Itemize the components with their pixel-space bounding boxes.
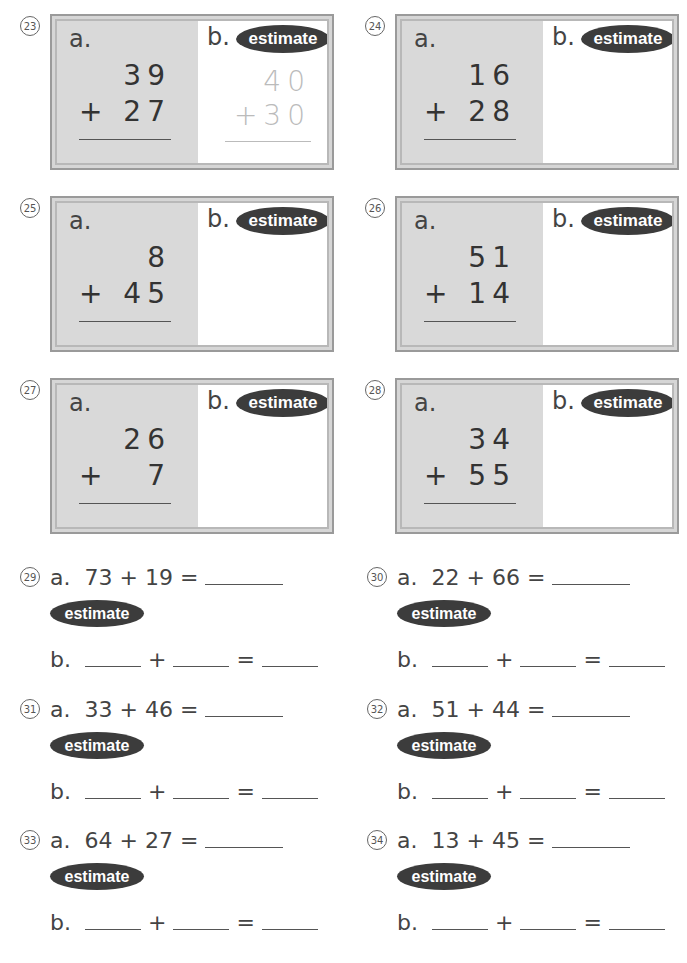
answer-blank[interactable] (552, 583, 630, 585)
estimate-addend-1-blank[interactable] (432, 797, 488, 799)
problem-frame: a. 26 + 7 b. estimate (50, 378, 334, 534)
part-a-label: a. (397, 565, 417, 590)
estimate-badge: estimate (236, 389, 329, 417)
addend-top: 34 (468, 423, 516, 456)
equation: 51 + 44 = (431, 697, 545, 722)
equation: 22 + 66 = (431, 565, 545, 590)
part-b-row: b. + = (50, 910, 318, 935)
problem-number: 23 (20, 16, 40, 36)
part-b-label: b. (207, 23, 230, 51)
problem-number: 33 (20, 830, 40, 850)
part-b-label: b. (552, 205, 575, 233)
equation: 73 + 19 = (84, 565, 198, 590)
estimate-addend-2-blank[interactable] (520, 797, 576, 799)
estimate-badge: estimate (236, 207, 329, 235)
part-b-label: b. (50, 647, 71, 672)
addend-bottom: + 55 (424, 459, 516, 492)
addend-bottom: + 45 (79, 277, 171, 310)
estimate-addend-1-blank[interactable] (85, 665, 141, 667)
answer-blank[interactable] (205, 583, 283, 585)
answer-line (424, 139, 516, 140)
part-a-label: a. (397, 828, 417, 853)
answer-blank[interactable] (205, 715, 283, 717)
part-b-row: b. + = (397, 910, 665, 935)
part-b-row: b. + = (50, 647, 318, 672)
problem-number: 25 (20, 198, 40, 218)
estimate-addend-2-blank[interactable] (173, 797, 229, 799)
addend-top: 8 (147, 241, 171, 274)
part-b-label: b. (397, 647, 418, 672)
part-a-label: a. (69, 207, 91, 235)
problem-number: 27 (20, 380, 40, 400)
estimate-addend-1-blank[interactable] (85, 928, 141, 930)
answer-line (79, 503, 171, 504)
part-b-row: b. + = (397, 647, 665, 672)
problem-frame: a. 51 + 14 b. estimate (395, 196, 679, 352)
equation: 64 + 27 = (84, 828, 198, 853)
part-a-row: a. 51 + 44 = (397, 697, 630, 722)
part-a-label: a. (414, 389, 436, 417)
part-a-label: a. (414, 25, 436, 53)
estimate-badge: estimate (581, 207, 674, 235)
estimate-addend-2-blank[interactable] (173, 665, 229, 667)
problem-frame: a. 16 + 28 b. estimate (395, 14, 679, 170)
problem-number: 34 (367, 830, 387, 850)
equals-sign: = (236, 910, 254, 935)
part-b-label: b. (50, 910, 71, 935)
estimate-badge: estimate (50, 732, 144, 759)
part-a-label: a. (50, 697, 70, 722)
problem-frame: a. 34 + 55 b. estimate (395, 378, 679, 534)
part-a-row: a. 73 + 19 = (50, 565, 283, 590)
addend-bottom: + 7 (79, 459, 171, 492)
part-b-row: b. + = (397, 779, 665, 804)
equals-sign: = (236, 779, 254, 804)
estimate-badge: estimate (581, 25, 674, 53)
estimate-addend-2-blank[interactable] (173, 928, 229, 930)
estimate-sum-blank[interactable] (609, 797, 665, 799)
problem-frame: a. 39 + 27 b. estimate 40 +30 (50, 14, 334, 170)
plus-sign: + (495, 910, 513, 935)
problem-number: 29 (20, 567, 40, 587)
estimate-sum-blank[interactable] (609, 928, 665, 930)
estimate-addend-1-blank[interactable] (432, 928, 488, 930)
answer-blank[interactable] (552, 846, 630, 848)
part-a-label: a. (69, 389, 91, 417)
equation: 33 + 46 = (84, 697, 198, 722)
addend-bottom: + 27 (79, 95, 171, 128)
equals-sign: = (583, 910, 601, 935)
problem-number: 24 (365, 16, 385, 36)
part-b-label: b. (552, 387, 575, 415)
estimate-addend-2-blank[interactable] (520, 928, 576, 930)
addend-top: 51 (468, 241, 516, 274)
estimate-badge: estimate (50, 863, 144, 890)
estimate-addend-2-blank[interactable] (520, 665, 576, 667)
estimate-badge: estimate (581, 389, 674, 417)
plus-sign: + (148, 647, 166, 672)
part-b-label: b. (50, 779, 71, 804)
estimate-sum-blank[interactable] (609, 665, 665, 667)
estimate-sum-blank[interactable] (262, 665, 318, 667)
part-a-label: a. (414, 207, 436, 235)
problem-number: 28 (365, 380, 385, 400)
part-b-label: b. (397, 779, 418, 804)
problem-number: 30 (367, 567, 387, 587)
plus-sign: + (495, 647, 513, 672)
estimate-sum-blank[interactable] (262, 928, 318, 930)
part-b-label: b. (552, 23, 575, 51)
answer-blank[interactable] (552, 715, 630, 717)
part-b-label: b. (207, 205, 230, 233)
estimate-line (225, 141, 311, 142)
equals-sign: = (583, 647, 601, 672)
estimate-addend-1-blank[interactable] (432, 665, 488, 667)
answer-line (79, 321, 171, 322)
equals-sign: = (236, 647, 254, 672)
estimate-sum-blank[interactable] (262, 797, 318, 799)
part-a-row: a. 64 + 27 = (50, 828, 283, 853)
addend-top: 39 (123, 59, 171, 92)
part-a-label: a. (50, 565, 70, 590)
answer-blank[interactable] (205, 846, 283, 848)
answer-line (424, 503, 516, 504)
plus-sign: + (148, 779, 166, 804)
addend-top: 16 (468, 59, 516, 92)
estimate-addend-1-blank[interactable] (85, 797, 141, 799)
